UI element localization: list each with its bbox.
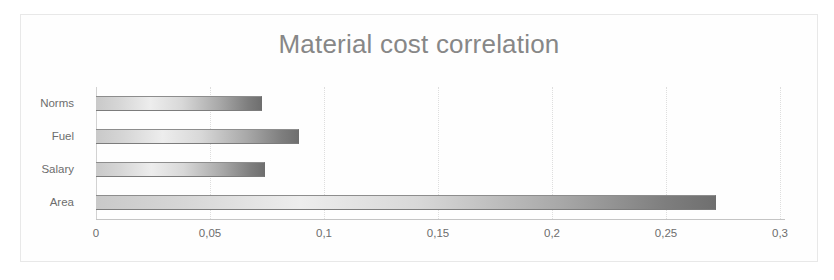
gridline-0,3 [780,87,782,219]
category-label-norms: Norms [0,97,74,109]
x-tick-label-0,25: 0,25 [636,227,696,239]
bar-row [96,120,780,153]
bar-norms[interactable] [96,96,262,111]
bar-area[interactable] [96,195,716,210]
x-tick-label-0,05: 0,05 [180,227,240,239]
x-tick-label-0,15: 0,15 [408,227,468,239]
chart-title: Material cost correlation [21,29,817,60]
chart-frame: Material cost correlation NormsFuelSalar… [20,14,818,262]
category-label-salary: Salary [0,163,74,175]
plot-area [96,87,784,219]
category-label-area: Area [0,196,74,208]
x-tick-label-0,1: 0,1 [294,227,354,239]
x-tick-label-0,3: 0,3 [750,227,810,239]
x-tick-label-0: 0 [66,227,126,239]
bar-fuel[interactable] [96,129,299,144]
bar-salary[interactable] [96,162,265,177]
bar-row [96,87,780,120]
category-label-fuel: Fuel [0,130,74,142]
x-tick-label-0,2: 0,2 [522,227,582,239]
bar-row [96,153,780,186]
x-axis-line [96,219,785,220]
bar-row [96,186,780,219]
